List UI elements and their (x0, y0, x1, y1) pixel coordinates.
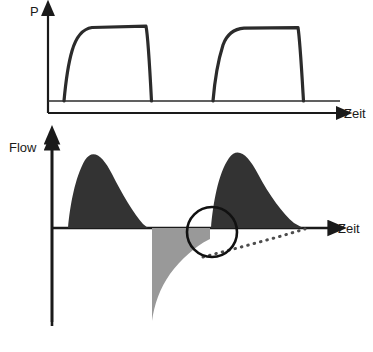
figure-canvas: P Zeit Flow Zeit (0, 0, 373, 352)
pressure-x-axis-label: Zeit (344, 106, 366, 121)
ventilation-waveform-diagram: P Zeit Flow Zeit (0, 0, 373, 352)
flow-y-axis-label: Flow (9, 140, 37, 155)
flow-x-axis-label: Zeit (338, 221, 360, 236)
pressure-y-axis-label: P (30, 4, 39, 19)
figure-background (0, 0, 373, 352)
